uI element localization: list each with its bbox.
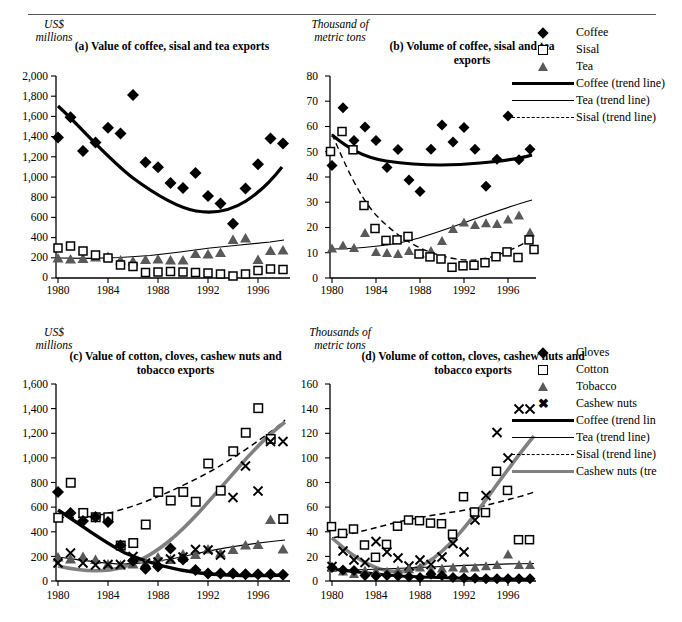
panel-d-ytick-8: 0: [288, 575, 318, 587]
panel-b-series-coffee: [327, 102, 536, 197]
panel-b-ytick-7: 10: [282, 247, 318, 259]
legend-bottom-row-tobacco[interactable]: Tobacco: [512, 378, 657, 395]
legend-top-row-sisal-trend[interactable]: Sisal (trend line): [512, 109, 665, 126]
panel-a-ytick-10: 0: [0, 271, 48, 283]
legend-top-label-4: Tea (trend line): [574, 93, 650, 108]
panel-d-ytick-0: 160: [288, 378, 318, 390]
legend-bottom-row-sisal-trend[interactable]: Sisal (trend line): [512, 446, 657, 463]
panel-a-plot: [0, 60, 330, 300]
legend-bottom-label-6: Sisal (trend line): [574, 447, 656, 462]
panel-a-axes: [56, 76, 290, 278]
panel-b-ytick-8: 0: [282, 272, 318, 284]
panel-d-ytick-7: 20: [288, 551, 318, 563]
panel-a-trend-coffee: [58, 106, 282, 212]
panel-d-xtick-1: 1984: [354, 589, 398, 601]
panel-b-ytick-3: 50: [282, 146, 318, 158]
legend-bottom-row-cashew[interactable]: ✖ Cashew nuts: [512, 395, 657, 412]
legend-bottom: Cloves Cotton Tobacco ✖ Cashew nuts Coff…: [512, 344, 657, 480]
panel-a-xtick-2: 1988: [136, 284, 180, 296]
panel-b-xtick-3: 1992: [442, 284, 486, 296]
panel-d-trend-cashew: [332, 436, 534, 572]
panel-b-ytick-0: 80: [282, 70, 318, 82]
tea-triangle-marker-icon: [512, 58, 574, 75]
legend-bottom-row-cashew-trend[interactable]: Cashew nuts (tre: [512, 463, 657, 480]
panel-a-ytick-9: 200: [0, 251, 48, 263]
cashew-trend-line-icon: [512, 463, 574, 480]
panel-c-ytick-5: 600: [0, 501, 48, 513]
header-rule: [28, 14, 656, 15]
panel-b-ytick-4: 40: [282, 171, 318, 183]
legend-top-row-sisal[interactable]: Sisal: [512, 41, 665, 58]
panel-d-trend-cotton: [332, 492, 534, 538]
panel-d-yticks-marks: [325, 384, 330, 581]
tea-trend-line-icon: [512, 92, 574, 109]
tea-trend-line-icon: [512, 429, 574, 446]
panel-a-xtick-0: 1980: [36, 284, 80, 296]
legend-bottom-label-4: Coffee (trend lin: [574, 413, 656, 428]
panel-c-ytick-2: 1,200: [0, 427, 48, 439]
panel-d-xtick-3: 1992: [442, 589, 486, 601]
legend-bottom-label-5: Tea (trend line): [574, 430, 650, 445]
panel-a-ytick-5: 1,000: [0, 171, 48, 183]
panel-d-ytick-6: 40: [288, 526, 318, 538]
panel-b-xtick-1: 1984: [354, 284, 398, 296]
sisal-square-marker-icon: [512, 41, 574, 58]
panel-d-ytick-2: 120: [288, 427, 318, 439]
panel-a-ytick-1: 1,800: [0, 90, 48, 102]
panel-c-xtick-4: 1996: [236, 589, 280, 601]
legend-top-label-2: Tea: [574, 59, 593, 74]
panel-c-xtick-3: 1992: [186, 589, 230, 601]
panel-c-ytick-4: 800: [0, 477, 48, 489]
panel-b-ytick-2: 60: [282, 120, 318, 132]
legend-bottom-row-coffee-trend[interactable]: Coffee (trend lin: [512, 412, 657, 429]
legend-bottom-label-2: Tobacco: [574, 379, 616, 394]
panel-c-ytick-8: 0: [0, 575, 48, 587]
panel-c-ytick-3: 1,000: [0, 452, 48, 464]
legend-bottom-row-cloves[interactable]: Cloves: [512, 344, 657, 361]
legend-bottom-row-tea-trend[interactable]: Tea (trend line): [512, 429, 657, 446]
panel-c-xtick-1: 1984: [86, 589, 130, 601]
panel-a-svg: [0, 60, 330, 300]
panel-c-ytick-7: 200: [0, 551, 48, 563]
legend-bottom-label-7: Cashew nuts (tre: [574, 464, 657, 479]
legend-top-row-coffee[interactable]: Coffee: [512, 24, 665, 41]
panel-d-ytick-4: 80: [288, 477, 318, 489]
cashew-cross-marker-icon: ✖: [512, 395, 574, 412]
legend-top: Coffee Sisal Tea Coffee (trend line) Tea…: [512, 24, 665, 126]
panel-c-yticks-marks: [51, 384, 56, 581]
legend-top-row-tea[interactable]: Tea: [512, 58, 665, 75]
panel-b-ytick-1: 70: [282, 95, 318, 107]
panel-a-title: (a) Value of coffee, sisal and tea expor…: [72, 40, 272, 54]
panel-c-series-cotton: [54, 404, 288, 550]
panel-a-series-tea: [53, 233, 289, 266]
panel-b-xtick-0: 1980: [310, 284, 354, 296]
panel-a-ytick-8: 400: [0, 231, 48, 243]
cotton-square-marker-icon: [512, 361, 574, 378]
panel-c-ytick-0: 1,600: [0, 378, 48, 390]
panel-d-ytick-3: 100: [288, 452, 318, 464]
legend-top-label-3: Coffee (trend line): [574, 76, 665, 91]
panel-a-xtick-4: 1996: [236, 284, 280, 296]
panel-c-xtick-2: 1988: [136, 589, 180, 601]
panel-d-xtick-4: 1996: [486, 589, 530, 601]
legend-top-label-5: Sisal (trend line): [574, 110, 656, 125]
panel-d-xtick-0: 1980: [310, 589, 354, 601]
panel-a-ytick-0: 2,000: [0, 70, 48, 82]
sisal-trend-line-icon: [512, 109, 574, 126]
panel-c-xtick-0: 1980: [36, 589, 80, 601]
panel-c-svg: [0, 372, 330, 597]
legend-bottom-label-3: Cashew nuts: [574, 396, 637, 411]
panel-d-unit-label: Thousands of metric tons: [294, 326, 386, 351]
panel-b-unit-label: Thousand of metric tons: [296, 18, 384, 43]
panel-a-ytick-4: 1,200: [0, 151, 48, 163]
legend-top-row-coffee-trend[interactable]: Coffee (trend line): [512, 75, 665, 92]
panel-b-ytick-5: 30: [282, 196, 318, 208]
coffee-trend-line-icon: [512, 75, 574, 92]
legend-bottom-row-cotton[interactable]: Cotton: [512, 361, 657, 378]
panel-d-axes: [330, 384, 536, 581]
panel-b-xtick-4: 1996: [486, 284, 530, 296]
panel-a-ytick-3: 1,400: [0, 130, 48, 142]
panel-d-ytick-1: 140: [288, 403, 318, 415]
legend-top-row-tea-trend[interactable]: Tea (trend line): [512, 92, 665, 109]
tobacco-triangle-marker-icon: [512, 378, 574, 395]
